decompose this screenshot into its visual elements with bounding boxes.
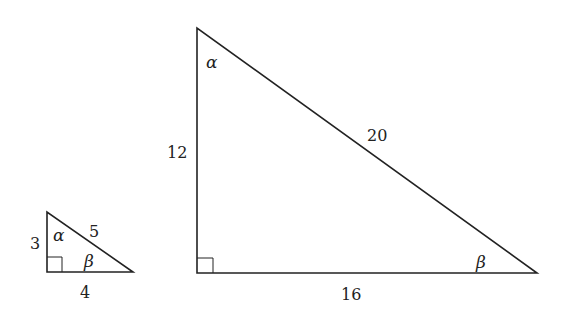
- large-triangle-outline: [197, 28, 537, 273]
- small-hypotenuse-label: 5: [89, 222, 99, 241]
- small-right-angle-marker: [47, 257, 62, 272]
- small-alpha-label: α: [53, 225, 65, 245]
- large-hypotenuse-label: 20: [367, 126, 387, 145]
- small-triangle: 3 α 5 β 4: [30, 212, 133, 302]
- large-triangle: α 12 20 β 16: [167, 28, 537, 304]
- large-beta-label: β: [475, 252, 486, 272]
- small-beta-label: β: [83, 251, 94, 271]
- small-horizontal-leg-label: 4: [80, 283, 90, 302]
- similar-triangles-diagram: 3 α 5 β 4 α 12 20 β 16: [0, 0, 567, 316]
- large-right-angle-marker: [197, 258, 213, 273]
- large-horizontal-leg-label: 16: [341, 285, 361, 304]
- large-vertical-leg-label: 12: [167, 143, 187, 162]
- small-vertical-leg-label: 3: [30, 234, 40, 253]
- large-alpha-label: α: [206, 52, 218, 72]
